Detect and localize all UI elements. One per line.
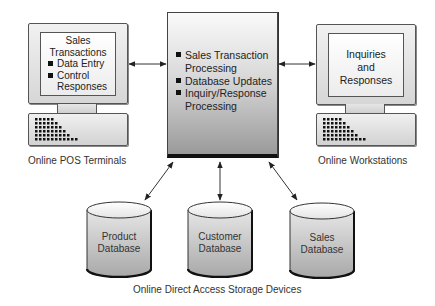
processor-item-text: Processing [185,100,237,112]
pos-screen: Sales Transactions Data Entry Control Re… [40,32,116,96]
processor-item-database-updates: Database Updates [175,75,272,88]
keyboard-keys-icon [323,118,373,144]
db-label-line: Product [86,231,152,243]
db-label-line: Database [289,244,355,256]
processor-function-list: Sales Transaction Processing Database Up… [175,49,272,113]
processor-item-text: Inquiry/Response [185,87,267,99]
pos-item-control: Control [47,70,115,82]
sales-database: Sales Database [289,202,355,279]
db-label-line: Customer [187,231,253,243]
workstation-screen: Inquiries and Responses [328,33,404,97]
workstation-screen-line: Responses [329,74,403,87]
customer-database-label: Customer Database [187,231,253,255]
pos-item-responses: Responses [41,81,115,93]
storage-devices-caption: Online Direct Access Storage Devices [133,284,301,295]
pos-screen-title-line2: Transactions [41,47,115,59]
processor-item-text: Processing [185,62,237,74]
processor-item-sales-transaction: Sales Transaction Processing [175,49,272,75]
central-processor: Sales Transaction Processing Database Up… [167,12,278,158]
db-label-line: Database [187,243,253,255]
sales-database-label: Sales Database [289,232,355,256]
workstation-monitor-neck [345,104,385,113]
pos-keyboard [28,113,128,146]
pos-monitor: Sales Transactions Data Entry Control Re… [28,23,128,104]
db-label-line: Database [86,243,152,255]
pos-screen-title-line1: Sales [41,35,115,47]
arrow-processor-to-product-db [145,162,173,200]
workstation-screen-line: Inquiries [329,48,403,61]
customer-database: Customer Database [187,201,253,278]
workstation-screen-line: and [329,61,403,74]
pos-monitor-neck [57,104,97,113]
keyboard-keys-icon [35,118,85,144]
pos-item-data-entry: Data Entry [47,58,115,70]
processor-item-text: Sales Transaction [185,49,268,61]
pos-screen-list: Data Entry Control [41,58,115,81]
processor-item-inquiry-response: Inquiry/Response Processing [175,87,272,113]
arrow-processor-to-sales-db [269,162,297,200]
processor-item-text: Database Updates [185,75,272,87]
workstation-keyboard [316,113,416,146]
product-database: Product Database [86,201,152,278]
workstations-caption: Online Workstations [318,155,407,166]
workstation-monitor: Inquiries and Responses [316,24,416,105]
pos-terminals-caption: Online POS Terminals [28,155,126,166]
db-label-line: Sales [289,232,355,244]
product-database-label: Product Database [86,231,152,255]
